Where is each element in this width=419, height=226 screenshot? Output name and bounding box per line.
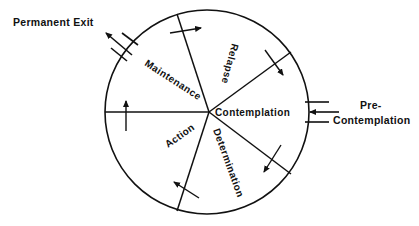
exit-label: Permanent Exit: [13, 16, 94, 28]
stages-of-change-diagram: Contemplation Determination Action Maint…: [0, 0, 419, 226]
arrow-determination-to-action-icon: [174, 182, 199, 198]
stage-label-action: Action: [163, 121, 197, 149]
entry-label-line1: Pre-: [360, 99, 382, 111]
arrow-maintenance-to-relapse-icon: [170, 28, 201, 33]
stage-label-relapse: Relapse: [219, 42, 240, 85]
stage-label-contemplation: Contemplation: [215, 107, 290, 118]
exit-arrow-icon: [106, 33, 138, 61]
stage-label-maintenance: Maintenance: [143, 57, 204, 102]
arrow-contemplation-to-determination-icon: [264, 145, 281, 172]
arrow-relapse-to-contemplation-icon: [265, 50, 283, 75]
entry-label-line2: Contemplation: [333, 114, 410, 126]
stage-label-determination: Determination: [211, 127, 246, 199]
